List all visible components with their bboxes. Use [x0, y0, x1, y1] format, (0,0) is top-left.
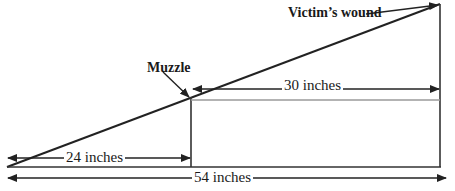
- muzzle-leader-line: [163, 72, 189, 97]
- dimension-label-24: 24 inches: [64, 150, 125, 165]
- victims-wound-label: Victim’s wound: [288, 6, 381, 20]
- trajectory-diagram: Muzzle Victim’s wound 30 inches 24 inche…: [0, 0, 455, 191]
- trajectory-line: [7, 4, 440, 167]
- muzzle-label: Muzzle: [147, 61, 191, 75]
- dimension-label-30: 30 inches: [282, 78, 343, 93]
- dimension-label-54: 54 inches: [192, 170, 253, 185]
